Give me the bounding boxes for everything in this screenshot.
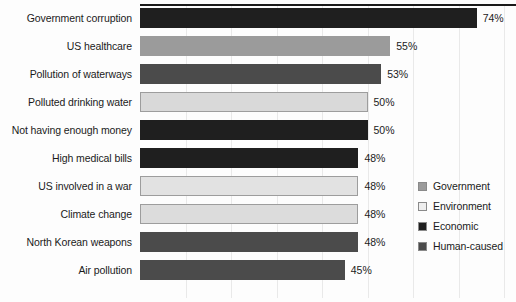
- bar-row: Pollution of waterways53%: [0, 60, 516, 88]
- category-label: Not having enough money: [0, 116, 132, 144]
- bar: [140, 148, 358, 168]
- bar: [140, 204, 358, 224]
- bar-value-label: 50%: [374, 92, 395, 112]
- legend-label: Economic: [433, 220, 478, 232]
- category-label: Climate change: [0, 200, 132, 228]
- bar-value-label: 48%: [364, 176, 385, 196]
- category-label: US healthcare: [0, 32, 132, 60]
- bar: [140, 176, 358, 196]
- bar-track: 45%: [140, 256, 516, 284]
- legend-item[interactable]: Economic: [418, 216, 516, 236]
- category-label: US involved in a war: [0, 172, 132, 200]
- legend-item[interactable]: Human-caused: [418, 236, 516, 256]
- bar-row: US healthcare55%: [0, 32, 516, 60]
- bar-track: 53%: [140, 60, 516, 88]
- bar: [140, 260, 345, 280]
- legend-swatch-icon: [418, 222, 427, 231]
- bar: [140, 36, 390, 56]
- category-label: North Korean weapons: [0, 228, 132, 256]
- bar: [140, 64, 381, 84]
- bar: [140, 8, 477, 28]
- category-label: Air pollution: [0, 256, 132, 284]
- bar-value-label: 53%: [387, 64, 408, 84]
- bar-row: High medical bills48%: [0, 144, 516, 172]
- category-label: Government corruption: [0, 4, 132, 32]
- bar-track: 50%: [140, 116, 516, 144]
- bar: [140, 120, 368, 140]
- legend-item[interactable]: Environment: [418, 196, 516, 216]
- legend-label: Environment: [433, 200, 491, 212]
- bar-value-label: 55%: [396, 36, 417, 56]
- bar-row: Air pollution45%: [0, 256, 516, 284]
- bar-row: Government corruption74%: [0, 4, 516, 32]
- legend-swatch-icon: [418, 242, 427, 251]
- bar-value-label: 50%: [374, 120, 395, 140]
- bar: [140, 232, 358, 252]
- bar-row: Not having enough money50%: [0, 116, 516, 144]
- bar-value-label: 48%: [364, 148, 385, 168]
- bar-chart: Government corruption74%US healthcare55%…: [0, 0, 516, 302]
- legend-swatch-icon: [418, 182, 427, 191]
- bar-value-label: 48%: [364, 232, 385, 252]
- bar-track: 50%: [140, 88, 516, 116]
- bar-row: Polluted drinking water50%: [0, 88, 516, 116]
- bar-track: 74%: [140, 4, 516, 32]
- category-label: Polluted drinking water: [0, 88, 132, 116]
- legend-item[interactable]: Government: [418, 176, 516, 196]
- category-label: Pollution of waterways: [0, 60, 132, 88]
- legend-swatch-icon: [418, 202, 427, 211]
- legend-label: Human-caused: [433, 240, 503, 252]
- category-label: High medical bills: [0, 144, 132, 172]
- bar: [140, 92, 368, 112]
- bar-value-label: 48%: [364, 204, 385, 224]
- legend-label: Government: [433, 180, 490, 192]
- bar-value-label: 45%: [351, 260, 372, 280]
- bar-track: 48%: [140, 144, 516, 172]
- bar-track: 55%: [140, 32, 516, 60]
- bar-value-label: 74%: [483, 8, 504, 28]
- chart-legend: GovernmentEnvironmentEconomicHuman-cause…: [418, 176, 516, 256]
